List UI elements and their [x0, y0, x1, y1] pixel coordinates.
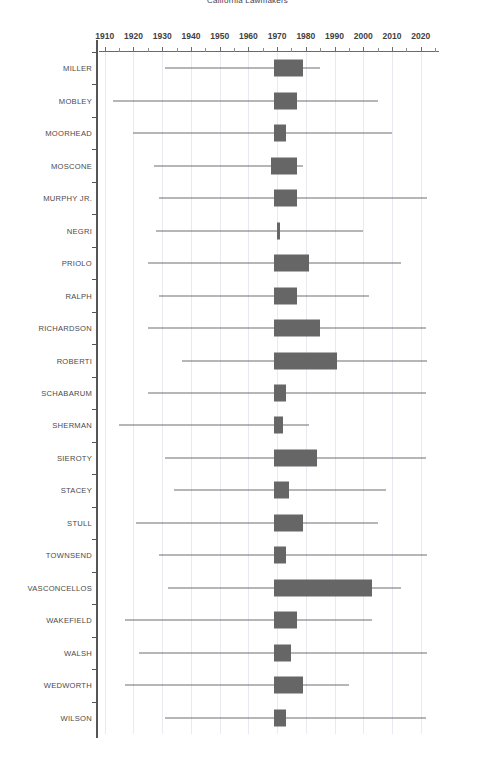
- x-tick-label: 1920: [124, 31, 143, 41]
- box-whisker-row: [99, 477, 438, 503]
- y-tick: [92, 572, 97, 573]
- box-marker: [274, 417, 283, 434]
- box-marker: [274, 255, 308, 272]
- box-marker: [274, 547, 285, 564]
- category-label: STULL: [0, 518, 92, 527]
- box-marker: [274, 320, 320, 337]
- box-marker: [274, 677, 303, 694]
- category-label: STACEY: [0, 486, 92, 495]
- y-tick: [92, 279, 97, 280]
- y-tick: [92, 247, 97, 248]
- category-label: SIEROTY: [0, 453, 92, 462]
- box-whisker-row: [99, 575, 438, 601]
- x-tick-label: 1910: [95, 31, 114, 41]
- y-tick: [92, 344, 97, 345]
- box-whisker-row: [99, 542, 438, 568]
- y-tick: [92, 669, 97, 670]
- box-marker: [274, 385, 285, 402]
- x-tick-label: 2010: [383, 31, 402, 41]
- category-label: WILSON: [0, 713, 92, 722]
- box-whisker-row: [99, 380, 438, 406]
- y-tick: [92, 52, 97, 53]
- box-marker: [274, 709, 285, 726]
- box-whisker-row: [99, 218, 438, 244]
- box-marker: [274, 449, 317, 466]
- x-tick-label: 1930: [153, 31, 172, 41]
- box-whisker-row: [99, 510, 438, 536]
- box-marker: [274, 352, 337, 369]
- category-label: MURPHY JR.: [0, 194, 92, 203]
- box-whisker-row: [99, 120, 438, 146]
- box-whisker-row: [99, 153, 438, 179]
- box-whisker-row: [99, 283, 438, 309]
- box-whisker-row: [99, 55, 438, 81]
- box-whisker-row: [99, 607, 438, 633]
- y-tick: [92, 312, 97, 313]
- box-whisker-row: [99, 705, 438, 731]
- plot-area: [99, 52, 438, 734]
- y-tick: [92, 442, 97, 443]
- x-tick-label: 1960: [239, 31, 258, 41]
- box-marker: [274, 482, 288, 499]
- whisker-line: [165, 717, 426, 718]
- box-marker: [274, 514, 303, 531]
- y-tick: [92, 377, 97, 378]
- y-axis-spine: [96, 40, 98, 738]
- category-label: MOBLEY: [0, 96, 92, 105]
- category-label: MILLER: [0, 64, 92, 73]
- y-tick: [92, 214, 97, 215]
- category-label: MOSCONE: [0, 161, 92, 170]
- y-tick: [92, 117, 97, 118]
- y-tick: [92, 702, 97, 703]
- whisker-line: [159, 295, 369, 296]
- y-tick: [92, 409, 97, 410]
- whisker-line: [125, 620, 372, 621]
- whisker-line: [125, 685, 349, 686]
- category-label: TOWNSEND: [0, 551, 92, 560]
- box-whisker-row: [99, 88, 438, 114]
- box-whisker-row: [99, 640, 438, 666]
- box-marker: [274, 644, 291, 661]
- whisker-line: [113, 100, 377, 101]
- box-marker: [274, 92, 297, 109]
- box-marker: [274, 125, 285, 142]
- category-label: MOORHEAD: [0, 129, 92, 138]
- box-whisker-row: [99, 672, 438, 698]
- box-marker: [274, 579, 372, 596]
- box-marker: [277, 222, 280, 239]
- category-label: ROBERTI: [0, 356, 92, 365]
- whisker-line: [159, 555, 426, 556]
- x-tick-label: 1970: [268, 31, 287, 41]
- box-marker: [274, 190, 297, 207]
- y-tick: [92, 539, 97, 540]
- category-label: WEDWORTH: [0, 681, 92, 690]
- whisker-line: [133, 133, 392, 134]
- y-tick: [92, 182, 97, 183]
- whisker-line: [148, 393, 427, 394]
- box-whisker-row: [99, 250, 438, 276]
- box-whisker-row: [99, 445, 438, 471]
- y-tick: [92, 84, 97, 85]
- box-marker: [274, 287, 297, 304]
- x-tick-label: 1950: [210, 31, 229, 41]
- y-tick: [92, 149, 97, 150]
- x-tick-label: 1980: [296, 31, 315, 41]
- category-label: RICHARDSON: [0, 324, 92, 333]
- box-marker: [274, 612, 297, 629]
- box-whisker-row: [99, 185, 438, 211]
- box-marker: [271, 157, 297, 174]
- category-label: VASCONCELLOS: [0, 583, 92, 592]
- x-tick-label: 2000: [354, 31, 373, 41]
- y-tick: [92, 637, 97, 638]
- whisker-line: [136, 522, 377, 523]
- box-whisker-row: [99, 315, 438, 341]
- category-label: SHERMAN: [0, 421, 92, 430]
- box-marker: [274, 60, 303, 77]
- box-whisker-row: [99, 412, 438, 438]
- x-tick-label: 2020: [411, 31, 430, 41]
- x-tick-label: 1940: [181, 31, 200, 41]
- category-label: NEGRI: [0, 226, 92, 235]
- category-labels: MILLERMOBLEYMOORHEADMOSCONEMURPHY JR.NEG…: [0, 0, 92, 778]
- y-tick: [92, 474, 97, 475]
- category-label: SCHABARUM: [0, 389, 92, 398]
